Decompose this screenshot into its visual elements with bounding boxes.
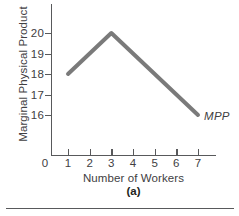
figure-panel-a: 20 19 18 17 16 0 1 2 3 4 5 6 7 Marginal … (0, 0, 239, 216)
figure-caption: (a) (51, 185, 216, 197)
chart-plot-area: 20 19 18 17 16 0 1 2 3 4 5 6 7 Marginal … (0, 0, 239, 216)
series-mpp (0, 0, 239, 216)
bottom-divider (6, 208, 234, 209)
series-label-mpp: MPP (204, 110, 230, 122)
